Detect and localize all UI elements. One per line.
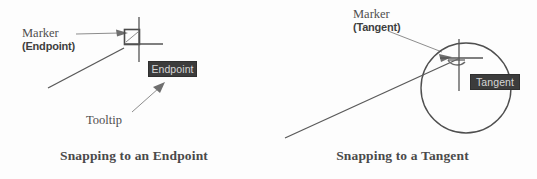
endpoint-square-marker [125, 30, 140, 45]
caption-snapping-to-endpoint: Snapping to an Endpoint [0, 148, 268, 164]
drafting-line [48, 48, 124, 88]
figure-snapping-to-endpoint: Marker (Endpoint) Tooltip Endpoint Snapp… [0, 0, 268, 179]
callout-tooltip-endpoint: Tooltip [86, 113, 122, 128]
caption-snapping-to-tangent: Snapping to a Tangent [268, 148, 537, 164]
callout-marker-tangent: Marker (Tangent) [353, 7, 401, 33]
callout-marker-tangent-main: Marker [353, 7, 401, 21]
tooltip-endpoint: Endpoint [148, 61, 197, 77]
callout-marker-endpoint: Marker (Endpoint) [22, 26, 75, 52]
figure-snapping-to-tangent: Marker (Tangent) Tangent Snapping to a T… [268, 0, 537, 179]
tangent-arc-marker [448, 60, 465, 65]
crosshair-cursor [124, 17, 163, 62]
marker-leader-line [76, 30, 128, 37]
diagram-page: Marker (Endpoint) Tooltip Endpoint Snapp… [0, 0, 537, 179]
callout-marker-endpoint-sub: (Endpoint) [22, 40, 75, 52]
tooltip-tangent: Tangent [470, 74, 520, 90]
tooltip-leader-line [132, 82, 165, 112]
callout-marker-tangent-sub: (Tangent) [353, 21, 401, 33]
callout-marker-endpoint-main: Marker [22, 26, 75, 40]
tangent-line [285, 59, 458, 138]
